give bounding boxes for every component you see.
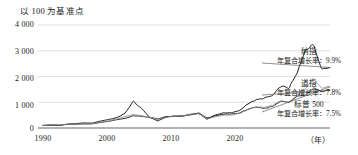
ytick-2000: 2 000 — [0, 74, 34, 83]
annotation-sp500-label: 标普 500 — [262, 101, 356, 110]
annotation-dow: 道指 年复合增长率：7.8% — [262, 80, 356, 97]
xtick-2010: 2010 — [151, 134, 191, 143]
ytick-1000: 1 000 — [0, 101, 34, 110]
ytick-3000: 3 000 — [0, 47, 34, 56]
annotation-nasdaq-cagr: 年复合增长率：9.9% — [262, 57, 356, 66]
annotation-nasdaq: 纳指 年复合增长率：9.9% — [262, 48, 356, 65]
ytick-0: 0 — [0, 124, 34, 133]
annotation-nasdaq-label: 纳指 — [262, 48, 356, 57]
annotation-dow-cagr: 年复合增长率：7.8% — [262, 89, 356, 98]
plot-canvas — [0, 0, 358, 155]
annotation-dow-label: 道指 — [262, 80, 356, 89]
xtick-1990: 1990 — [23, 134, 63, 143]
xtick-2020: 2020 — [215, 134, 255, 143]
annotation-sp500-cagr: 年复合增长率：7.5% — [262, 110, 356, 119]
xtick-2000: 2000 — [87, 134, 127, 143]
annotation-sp500: 标普 500 年复合增长率：7.5% — [262, 101, 356, 118]
x-axis-unit-label: （年） — [306, 134, 330, 145]
ytick-4000: 4 000 — [0, 20, 34, 29]
stock-index-chart: 以 100 为基准点 4 000 3 000 2 000 1 000 0 199… — [0, 0, 358, 155]
